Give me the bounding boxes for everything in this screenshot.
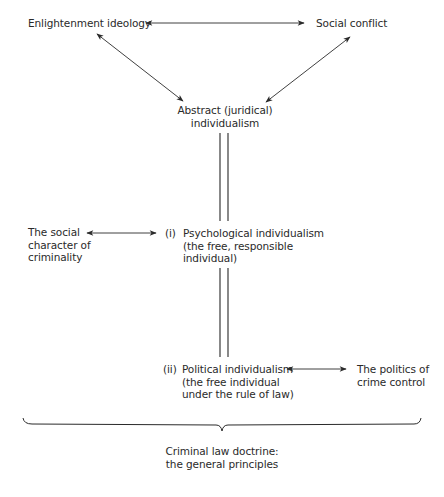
node-abstract-individualism: Abstract (juridical) individualism <box>165 104 285 129</box>
node-politics-crime-control: The politics of crime control <box>357 363 429 388</box>
node-political-line-1: Political individualism <box>182 363 294 376</box>
node-psychological-marker: (i) <box>165 227 176 240</box>
brace-bottom <box>23 418 421 431</box>
node-political-marker: (ii) <box>163 363 177 376</box>
double-line-psychological-political <box>220 268 228 357</box>
node-social-character-line-2: character of <box>28 239 91 252</box>
node-political-individualism: Political individualism (the free indivi… <box>182 363 294 401</box>
node-psychological-individualism: Psychological individualism (the free, r… <box>183 227 324 265</box>
node-politics-crime-line-2: crime control <box>357 376 429 389</box>
node-doctrine-line-1: Criminal law doctrine: <box>152 445 292 458</box>
node-social-character: The social character of criminality <box>28 226 91 264</box>
node-psychological-line-3: individual) <box>183 252 324 265</box>
node-criminal-law-doctrine: Criminal law doctrine: the general princ… <box>152 445 292 470</box>
node-political-line-3: under the rule of law) <box>182 388 294 401</box>
node-psychological-line-1: Psychological individualism <box>183 227 324 240</box>
node-social-character-line-3: criminality <box>28 251 91 264</box>
node-political-line-2: (the free individual <box>182 376 294 389</box>
node-enlightenment-ideology: Enlightenment ideology <box>28 17 151 30</box>
node-doctrine-line-2: the general principles <box>152 458 292 471</box>
node-politics-crime-line-1: The politics of <box>357 363 429 376</box>
node-social-conflict: Social conflict <box>316 17 387 30</box>
node-abstract-line-1: Abstract (juridical) <box>165 104 285 117</box>
double-line-abstract-psychological <box>220 133 228 221</box>
node-social-character-line-1: The social <box>28 226 91 239</box>
arrow-social-conflict-abstract <box>266 37 350 102</box>
arrow-enlightenment-abstract <box>97 34 183 101</box>
node-abstract-line-2: individualism <box>165 117 285 130</box>
node-psychological-line-2: (the free, responsible <box>183 240 324 253</box>
